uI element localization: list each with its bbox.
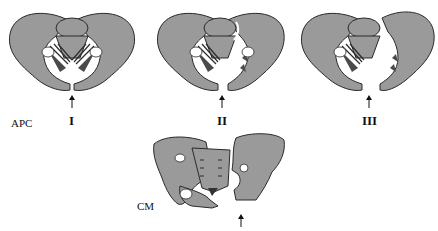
pelvis-illustration (298, 6, 436, 94)
pelvis-apc-grade-3 (298, 6, 436, 94)
grade-label-2: II (217, 113, 227, 129)
up-arrow-icon (237, 212, 245, 228)
pelvis-illustration (4, 6, 140, 94)
group-label-cm: CM (137, 200, 154, 212)
grade-label-3: III (362, 113, 377, 129)
up-arrow-icon (218, 93, 226, 109)
pelvis-illustration (152, 130, 292, 210)
pelvis-cm (152, 130, 292, 210)
pelvis-apc-grade-2 (152, 6, 288, 94)
arrow-apc-3 (368, 93, 370, 107)
grade-label-1: I (69, 113, 74, 129)
up-arrow-icon (68, 93, 76, 109)
arrow-apc-2 (221, 93, 223, 107)
pelvis-illustration (152, 6, 288, 94)
group-label-apc: APC (11, 117, 32, 129)
arrow-cm (240, 212, 242, 226)
arrow-apc-1 (71, 93, 73, 107)
up-arrow-icon (365, 93, 373, 109)
pelvis-apc-grade-1 (4, 6, 140, 94)
